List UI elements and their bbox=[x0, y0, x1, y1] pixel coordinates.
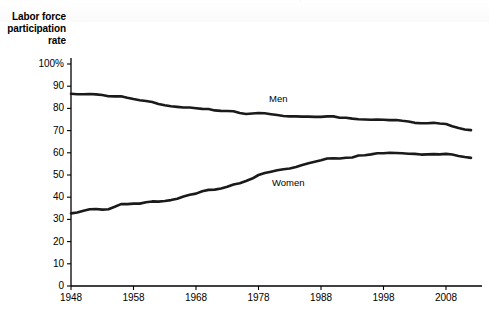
y-axis-tick-label: 0 bbox=[14, 281, 64, 291]
y-axis-tick-label: 40 bbox=[14, 192, 64, 202]
x-axis-tick-label: 2008 bbox=[426, 293, 466, 303]
chart-page: Labor force participation rate 100%90807… bbox=[0, 0, 489, 319]
x-axis-tick-label: 1978 bbox=[239, 293, 279, 303]
x-axis-tick-label: 1998 bbox=[364, 293, 404, 303]
x-axis-tick-label: 1948 bbox=[51, 293, 91, 303]
series-annotation-men: Men bbox=[269, 94, 287, 104]
y-axis-tick-label: 80 bbox=[14, 103, 64, 113]
x-axis-tick-label: 1988 bbox=[301, 293, 341, 303]
y-axis-tick-label: 70 bbox=[14, 126, 64, 136]
y-axis-tick-label: 100% bbox=[14, 59, 64, 69]
y-axis-tick-label: 60 bbox=[14, 148, 64, 158]
y-axis-tick-label: 30 bbox=[14, 214, 64, 224]
y-axis-tick-label: 50 bbox=[14, 170, 64, 180]
series-annotation-women: Women bbox=[272, 178, 305, 188]
chart-series-group bbox=[71, 94, 471, 214]
series-line-women bbox=[71, 153, 471, 214]
y-axis-tick-label: 20 bbox=[14, 237, 64, 247]
x-axis-tick-label: 1968 bbox=[176, 293, 216, 303]
y-axis-tick-label: 90 bbox=[14, 81, 64, 91]
y-axis-tick-label: 10 bbox=[14, 259, 64, 269]
x-axis-tick-label: 1958 bbox=[114, 293, 154, 303]
line-chart bbox=[0, 0, 489, 319]
